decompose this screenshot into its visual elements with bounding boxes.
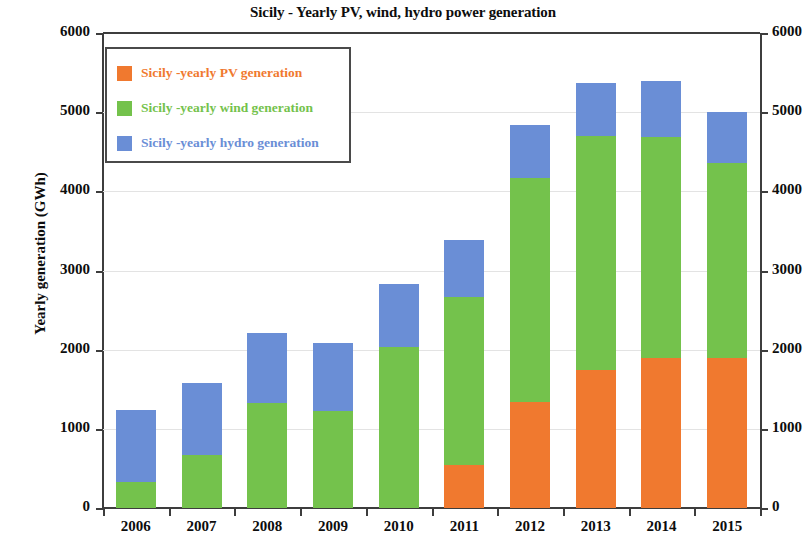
y-tick-label-left: 5000 xyxy=(60,102,90,119)
y-tick-left xyxy=(96,429,103,431)
bar-segment[interactable] xyxy=(313,411,353,508)
x-tick xyxy=(169,508,171,516)
y-tick-label-right: 0 xyxy=(772,498,780,515)
bar-segment[interactable] xyxy=(510,125,550,178)
bar-stack[interactable] xyxy=(576,83,616,508)
x-tick xyxy=(497,508,499,516)
x-tick-label: 2006 xyxy=(101,518,171,535)
x-tick xyxy=(366,508,368,516)
legend-label: Sicily -yearly hydro generation xyxy=(141,135,319,151)
y-tick-label-left: 1000 xyxy=(60,419,90,436)
y-tick-left xyxy=(96,112,103,114)
y-tick-right xyxy=(761,33,768,35)
y-tick-right xyxy=(761,112,768,114)
x-tick xyxy=(629,508,631,516)
chart-title: Sicily - Yearly PV, wind, hydro power ge… xyxy=(0,4,806,21)
legend-item[interactable]: Sicily -yearly wind generation xyxy=(117,98,313,118)
y-tick-right xyxy=(761,350,768,352)
bar-segment[interactable] xyxy=(444,297,484,465)
y-tick-label-right: 1000 xyxy=(772,419,802,436)
x-tick xyxy=(234,508,236,516)
y-tick-label-left: 3000 xyxy=(60,261,90,278)
x-tick xyxy=(300,508,302,516)
y-tick-label-left: 6000 xyxy=(60,23,90,40)
x-tick-label: 2011 xyxy=(429,518,499,535)
x-tick-label: 2013 xyxy=(561,518,631,535)
bar-segment[interactable] xyxy=(182,455,222,508)
x-tick-label: 2015 xyxy=(692,518,762,535)
y-tick-left xyxy=(96,271,103,273)
x-tick xyxy=(694,508,696,516)
y-tick-label-right: 5000 xyxy=(772,102,802,119)
chart-figure: Sicily - Yearly PV, wind, hydro power ge… xyxy=(0,0,806,544)
y-tick-right xyxy=(761,191,768,193)
legend-swatch-icon xyxy=(117,136,132,151)
x-tick-label: 2007 xyxy=(167,518,237,535)
bar-segment[interactable] xyxy=(247,333,287,403)
bar-segment[interactable] xyxy=(247,403,287,508)
y-tick-left xyxy=(96,508,103,510)
bar-stack[interactable] xyxy=(182,383,222,508)
bar-segment[interactable] xyxy=(116,482,156,508)
y-tick-label-left: 0 xyxy=(83,498,91,515)
y-tick-label-right: 3000 xyxy=(772,261,802,278)
y-tick-label-right: 6000 xyxy=(772,23,802,40)
y-tick-label-right: 2000 xyxy=(772,340,802,357)
bar-segment[interactable] xyxy=(576,136,616,370)
bar-segment[interactable] xyxy=(641,137,681,359)
bar-segment[interactable] xyxy=(707,163,747,359)
y-tick-right xyxy=(761,508,768,510)
y-tick-left xyxy=(96,33,103,35)
y-tick-label-left: 4000 xyxy=(60,181,90,198)
bar-stack[interactable] xyxy=(510,125,550,508)
x-tick-label: 2008 xyxy=(232,518,302,535)
bar-segment[interactable] xyxy=(510,178,550,402)
legend-label: Sicily -yearly PV generation xyxy=(141,65,302,81)
legend-label: Sicily -yearly wind generation xyxy=(141,100,313,116)
bar-stack[interactable] xyxy=(641,81,681,508)
bar-stack[interactable] xyxy=(707,112,747,508)
x-tick-label: 2009 xyxy=(298,518,368,535)
bar-segment[interactable] xyxy=(641,81,681,136)
bar-segment[interactable] xyxy=(576,370,616,508)
bar-segment[interactable] xyxy=(707,112,747,163)
bar-segment[interactable] xyxy=(444,240,484,297)
chart-legend: Sicily -yearly PV generationSicily -year… xyxy=(105,47,351,163)
x-tick xyxy=(563,508,565,516)
bar-segment[interactable] xyxy=(576,83,616,136)
x-tick-label: 2012 xyxy=(495,518,565,535)
y-tick-label-left: 2000 xyxy=(60,340,90,357)
bar-segment[interactable] xyxy=(379,347,419,509)
y-tick-label-right: 4000 xyxy=(772,181,802,198)
legend-swatch-icon xyxy=(117,66,132,81)
bar-segment[interactable] xyxy=(116,410,156,482)
legend-swatch-icon xyxy=(117,101,132,116)
bar-segment[interactable] xyxy=(444,465,484,508)
bar-stack[interactable] xyxy=(247,333,287,508)
bar-segment[interactable] xyxy=(182,383,222,455)
x-tick xyxy=(432,508,434,516)
bar-segment[interactable] xyxy=(313,343,353,411)
bar-stack[interactable] xyxy=(313,343,353,508)
y-tick-right xyxy=(761,429,768,431)
x-tick xyxy=(103,508,105,516)
y-axis-title: Yearly generation (GWh) xyxy=(32,109,49,399)
bar-segment[interactable] xyxy=(379,284,419,347)
x-tick xyxy=(760,508,762,516)
bar-segment[interactable] xyxy=(707,358,747,508)
bar-segment[interactable] xyxy=(510,402,550,508)
bar-stack[interactable] xyxy=(116,410,156,508)
x-tick-label: 2010 xyxy=(364,518,434,535)
bar-stack[interactable] xyxy=(379,284,419,508)
legend-item[interactable]: Sicily -yearly hydro generation xyxy=(117,133,319,153)
bar-segment[interactable] xyxy=(641,358,681,508)
x-tick-label: 2014 xyxy=(626,518,696,535)
legend-item[interactable]: Sicily -yearly PV generation xyxy=(117,63,302,83)
bar-stack[interactable] xyxy=(444,240,484,508)
y-tick-left xyxy=(96,350,103,352)
y-tick-left xyxy=(96,191,103,193)
y-tick-right xyxy=(761,271,768,273)
